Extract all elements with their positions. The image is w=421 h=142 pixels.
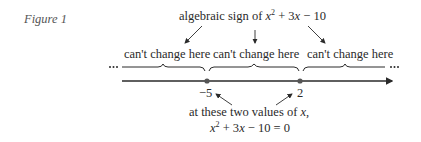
- top-annotation-prefix: algebraic sign of: [179, 9, 265, 23]
- arrow-to-right-region: [308, 26, 325, 43]
- region-label-right: can't change here: [307, 47, 393, 62]
- bottom-expr-part-a: + 3: [220, 121, 240, 135]
- bottom-line1-prefix: at these two values of: [189, 105, 300, 119]
- bottom-expr-part-b: − 10 = 0: [245, 121, 290, 135]
- tick-label-minus-5: −5: [199, 86, 212, 101]
- top-expr-part-b: − 10: [300, 9, 326, 23]
- arrow-to-left-region: [185, 26, 202, 43]
- tick-label-2: 2: [297, 86, 303, 101]
- bottom-line1-suffix: ,: [306, 105, 309, 119]
- bottom-arrows: [216, 94, 292, 105]
- left-brace: [122, 64, 205, 71]
- bottom-annotation-line2: x2 + 3x − 10 = 0: [210, 121, 290, 136]
- top-annotation: algebraic sign of x2 + 3x − 10: [179, 9, 326, 24]
- point-2: [297, 78, 302, 83]
- figure-label: Figure 1: [24, 12, 67, 27]
- middle-brace: [209, 64, 299, 71]
- region-label-middle: can't change here: [213, 47, 299, 62]
- right-brace: [303, 64, 385, 71]
- left-ellipsis-icon: [109, 66, 118, 68]
- arrow-to-2: [276, 94, 292, 105]
- top-arrows: [185, 26, 325, 43]
- region-label-left: can't change here: [124, 47, 210, 62]
- region-braces: [109, 64, 399, 71]
- bottom-annotation-line1: at these two values of x,: [189, 105, 309, 120]
- top-expr-part-a: + 3: [275, 9, 295, 23]
- point-minus-5: [204, 78, 209, 83]
- right-ellipsis-icon: [390, 66, 399, 68]
- arrow-to-minus-5: [216, 94, 232, 105]
